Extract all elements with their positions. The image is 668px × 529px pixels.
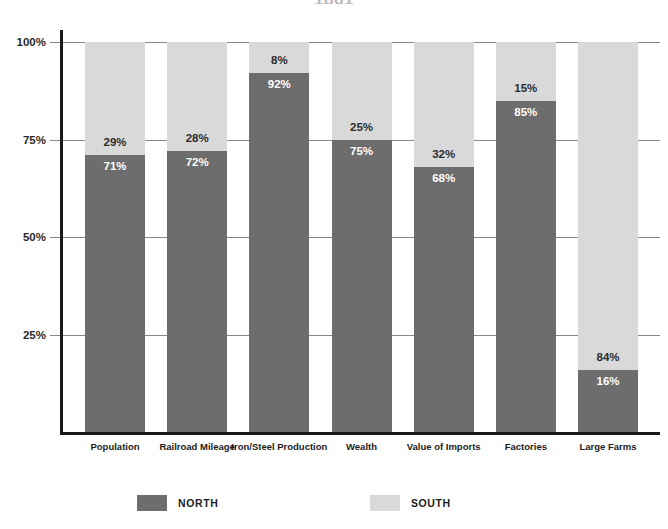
- x-axis-line: [60, 432, 660, 435]
- plot-area: 29%71%28%72%8%92%25%75%32%68%15%85%84%16…: [60, 30, 660, 434]
- bar-value-north: 16%: [578, 375, 638, 387]
- chart-title-partial: 1861: [0, 0, 668, 4]
- bar-group[interactable]: 25%75%: [332, 42, 392, 432]
- bar-value-north: 68%: [414, 172, 474, 184]
- bar-value-south: 8%: [249, 54, 309, 66]
- legend-swatch-south: [370, 495, 400, 511]
- bar-segment-north[interactable]: [496, 101, 556, 433]
- bar-group[interactable]: 32%68%: [414, 42, 474, 432]
- legend-label: SOUTH: [411, 497, 451, 509]
- category-label: Iron/Steel Production: [231, 441, 327, 452]
- bar-value-south: 84%: [578, 351, 638, 363]
- chart-legend: NORTHSOUTH: [0, 494, 668, 514]
- bar-value-north: 75%: [332, 145, 392, 157]
- bar-value-south: 25%: [332, 121, 392, 133]
- category-axis-labels: PopulationRailroad MileageIron/Steel Pro…: [60, 441, 660, 457]
- bars-layer: 29%71%28%72%8%92%25%75%32%68%15%85%84%16…: [60, 30, 660, 434]
- bar-segment-north[interactable]: [85, 155, 145, 432]
- category-label: Railroad Mileage: [159, 441, 235, 452]
- chart-page: 1861 29%71%28%72%8%92%25%75%32%68%15%85%…: [0, 0, 668, 529]
- bar-segment-north[interactable]: [249, 73, 309, 432]
- bar-value-south: 29%: [85, 136, 145, 148]
- legend-label: NORTH: [178, 497, 218, 509]
- category-label: Factories: [505, 441, 547, 452]
- bar-segment-north[interactable]: [167, 151, 227, 432]
- bar-value-north: 85%: [496, 106, 556, 118]
- bar-group[interactable]: 84%16%: [578, 42, 638, 432]
- bar-value-south: 32%: [414, 148, 474, 160]
- legend-item-south[interactable]: SOUTH: [370, 494, 451, 512]
- bar-segment-south[interactable]: [578, 42, 638, 370]
- bar-value-north: 92%: [249, 78, 309, 90]
- bar-segment-north[interactable]: [332, 140, 392, 433]
- y-tick-label-75: 75%: [0, 134, 46, 146]
- bar-value-north: 71%: [85, 160, 145, 172]
- bar-group[interactable]: 29%71%: [85, 42, 145, 432]
- bar-segment-north[interactable]: [414, 167, 474, 432]
- legend-item-north[interactable]: NORTH: [137, 494, 218, 512]
- bar-value-south: 28%: [167, 132, 227, 144]
- category-label: Population: [90, 441, 139, 452]
- y-tick-label-25: 25%: [0, 329, 46, 341]
- legend-swatch-north: [137, 495, 167, 511]
- bar-group[interactable]: 8%92%: [249, 42, 309, 432]
- category-label: Large Farms: [579, 441, 636, 452]
- bar-group[interactable]: 28%72%: [167, 42, 227, 432]
- bar-value-south: 15%: [496, 82, 556, 94]
- category-label: Wealth: [346, 441, 377, 452]
- bar-value-north: 72%: [167, 156, 227, 168]
- y-tick-label-100: 100%: [0, 36, 46, 48]
- category-label: Value of Imports: [407, 441, 481, 452]
- y-tick-label-50: 50%: [0, 231, 46, 243]
- y-axis-line: [60, 30, 63, 434]
- bar-group[interactable]: 15%85%: [496, 42, 556, 432]
